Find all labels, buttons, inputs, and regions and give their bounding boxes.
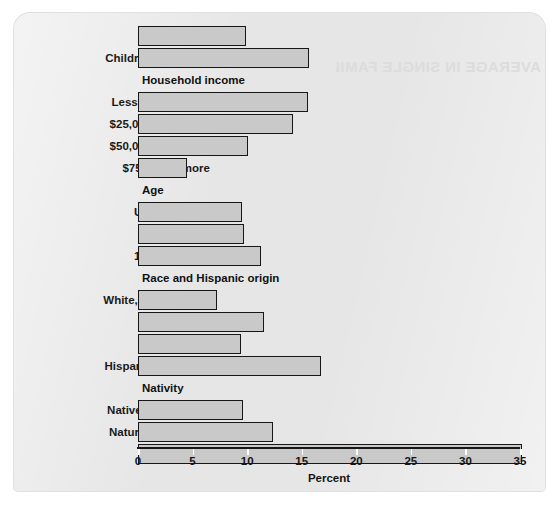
bar-row: $50,000 to $74,999 xyxy=(0,135,555,157)
group-header-label: Nativity xyxy=(142,377,184,399)
group-header-row: Nativity xyxy=(0,377,555,399)
group-header-label: Household income xyxy=(142,69,245,91)
bar-row: Asian xyxy=(0,333,555,355)
bar xyxy=(138,290,217,310)
bar xyxy=(138,202,242,222)
bar xyxy=(138,422,273,442)
bar xyxy=(138,26,246,46)
horizontal-bar-chart: All childrenChildren in povertyHousehold… xyxy=(0,0,555,507)
x-axis-tick-label: 30 xyxy=(445,455,485,467)
group-header-label: Race and Hispanic origin xyxy=(142,267,279,289)
bar xyxy=(138,312,264,332)
bar-row: 12 to 17 years xyxy=(0,245,555,267)
bar xyxy=(138,136,248,156)
bar-row: Less than $25,000 xyxy=(0,91,555,113)
bar-row: Children in poverty xyxy=(0,47,555,69)
bar-row: White, not Hispanic xyxy=(0,289,555,311)
x-axis-line xyxy=(137,447,520,449)
bar-row: Native-born citizen xyxy=(0,399,555,421)
x-axis-tick-label: 0 xyxy=(118,455,158,467)
bar xyxy=(138,92,308,112)
x-axis-tick-label: 35 xyxy=(500,455,540,467)
bar-row: Under 6 years xyxy=(0,201,555,223)
bar xyxy=(138,400,243,420)
bar-row: 6 to 11 years xyxy=(0,223,555,245)
bar xyxy=(138,48,309,68)
bar-row: Naturalized citizen xyxy=(0,421,555,443)
bar xyxy=(138,356,321,376)
x-axis-tick-label: 5 xyxy=(173,455,213,467)
bar-row: Hispanic (any race) xyxy=(0,355,555,377)
bar-row: $75,000 or more xyxy=(0,157,555,179)
group-header-label: Age xyxy=(142,179,164,201)
x-axis-title: Percent xyxy=(138,472,520,484)
bar xyxy=(138,334,241,354)
group-header-row: Race and Hispanic origin xyxy=(0,267,555,289)
x-axis-tick-label: 20 xyxy=(336,455,376,467)
bar xyxy=(138,158,187,178)
bar xyxy=(138,246,261,266)
group-header-row: Household income xyxy=(0,69,555,91)
bar-row: $25,000 to $49,999 xyxy=(0,113,555,135)
bar-row: Black xyxy=(0,311,555,333)
bar xyxy=(138,224,244,244)
x-axis-tick-label: 10 xyxy=(227,455,267,467)
page-canvas: AVERAGE IN SINGLE FAMILY All childrenChi… xyxy=(0,0,555,507)
x-axis-tick-label: 15 xyxy=(282,455,322,467)
group-header-row: Age xyxy=(0,179,555,201)
x-axis-tick-label: 25 xyxy=(391,455,431,467)
bar-row: All children xyxy=(0,25,555,47)
bar xyxy=(138,114,293,134)
